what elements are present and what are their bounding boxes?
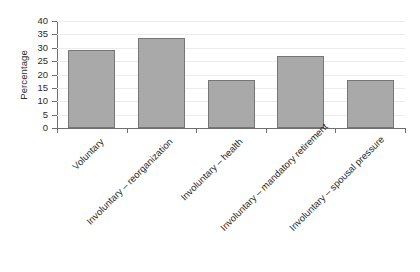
x-axis-line bbox=[57, 128, 406, 129]
y-tick-label: 15 bbox=[22, 83, 48, 93]
y-tick-label: 20 bbox=[22, 70, 48, 80]
y-tick-label: 30 bbox=[22, 43, 48, 53]
y-tick-label: 0 bbox=[22, 123, 48, 133]
bar bbox=[277, 56, 324, 128]
bar bbox=[208, 80, 255, 128]
bars-group bbox=[57, 21, 405, 128]
x-tick-mark bbox=[57, 129, 58, 133]
x-tick-mark bbox=[405, 129, 406, 133]
x-tick-mark bbox=[196, 129, 197, 133]
y-tick-label: 35 bbox=[22, 29, 48, 39]
x-tick-mark bbox=[335, 129, 336, 133]
x-tick-mark bbox=[266, 129, 267, 133]
y-tick-label: 25 bbox=[22, 56, 48, 66]
y-tick-label: 5 bbox=[22, 110, 48, 120]
bar bbox=[347, 80, 394, 128]
bar bbox=[138, 38, 185, 128]
bar-chart: Percentage 0510152025303540 VoluntaryInv… bbox=[0, 0, 420, 272]
x-tick-mark bbox=[127, 129, 128, 133]
y-tick-label: 10 bbox=[22, 96, 48, 106]
y-tick-label: 40 bbox=[22, 16, 48, 26]
bar bbox=[68, 50, 115, 128]
